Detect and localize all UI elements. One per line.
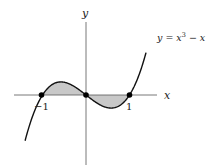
point-origin <box>83 92 89 98</box>
point-neg1 <box>39 92 45 98</box>
tick-label-neg1: −1 <box>34 101 49 112</box>
cubic-function-plot: y x −1 1 y = x3 − x <box>0 0 219 168</box>
y-axis-label: y <box>81 7 89 20</box>
tick-label-1: 1 <box>126 101 132 112</box>
shaded-region <box>86 95 130 108</box>
curve-label: y = x3 − x <box>156 31 206 43</box>
curve-label-base: y = x <box>156 32 182 43</box>
x-axis-label: x <box>164 89 171 102</box>
shaded-region <box>43 82 87 95</box>
point-1 <box>127 92 133 98</box>
curve-label-rest: − x <box>186 32 206 43</box>
